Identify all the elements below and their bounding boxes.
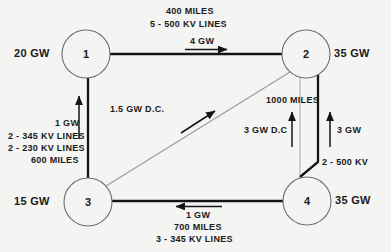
link-3-4-flow: 1 GW	[186, 210, 210, 221]
link-4-2-ac-line	[300, 70, 318, 177]
node-1-capacity: 20 GW	[14, 47, 50, 61]
link-1-2-distance: 400 MILES	[166, 6, 214, 17]
node-4-number: 4	[297, 195, 317, 207]
link-1-2-flow: 4 GW	[190, 36, 214, 47]
link-4-2-ac-flow: 3 GW	[337, 125, 361, 136]
link-3-4-distance: 700 MILES	[174, 222, 222, 233]
link-3-4-lines: 3 - 345 KV LINES	[156, 234, 233, 245]
power-grid-diagram: 1 2 3 4 20 GW 35 GW 15 GW 35 GW 400 MILE…	[0, 0, 391, 252]
node-3-number: 3	[78, 196, 98, 208]
link-4-2-dc-flow: 3 GW D.C	[244, 125, 287, 136]
node-4-capacity: 35 GW	[335, 194, 371, 208]
link-4-2-ac-distance: 1000 MILES	[266, 95, 319, 106]
link-1-2-lines: 5 - 500 KV LINES	[150, 19, 227, 30]
link-3-2-dc-flow: 1.5 GW D.C.	[110, 104, 164, 115]
node-1-number: 1	[76, 48, 96, 60]
link-1-3-distance: 600 MILES	[31, 155, 79, 166]
link-1-3-lines-a: 2 - 345 KV LINES	[8, 131, 85, 142]
link-1-3-flow: 1 GW	[55, 118, 79, 129]
node-2-capacity: 35 GW	[334, 47, 370, 61]
node-3-capacity: 15 GW	[14, 195, 50, 209]
link-4-2-ac-lines: 2 - 500 KV	[322, 157, 368, 168]
link-1-3-lines-b: 2 - 230 KV LINES	[8, 143, 85, 154]
node-2-number: 2	[296, 48, 316, 60]
